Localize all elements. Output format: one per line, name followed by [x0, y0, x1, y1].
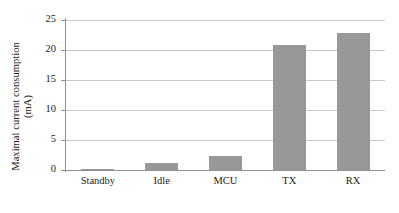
- y-axis-tick: [61, 170, 66, 171]
- y-axis-tick-label: 0: [30, 164, 56, 175]
- y-axis-title-line1: Maximal current consumption: [10, 42, 22, 171]
- bar: [81, 169, 114, 170]
- x-axis-tick-label: RX: [313, 176, 393, 187]
- y-axis-tick-label: 25: [30, 14, 56, 25]
- bar-chart: Maximal current consumption (mA) 0510152…: [0, 0, 399, 213]
- bar: [337, 33, 370, 170]
- plot-area: [66, 20, 385, 170]
- bar: [273, 45, 306, 170]
- y-axis-tick-label: 15: [30, 74, 56, 85]
- y-axis-tick-label: 5: [30, 134, 56, 145]
- y-axis-tick-label: 10: [30, 104, 56, 115]
- x-axis-line: [65, 170, 385, 171]
- y-axis-tick-label: 20: [30, 44, 56, 55]
- bar: [145, 163, 178, 170]
- bar: [209, 156, 242, 170]
